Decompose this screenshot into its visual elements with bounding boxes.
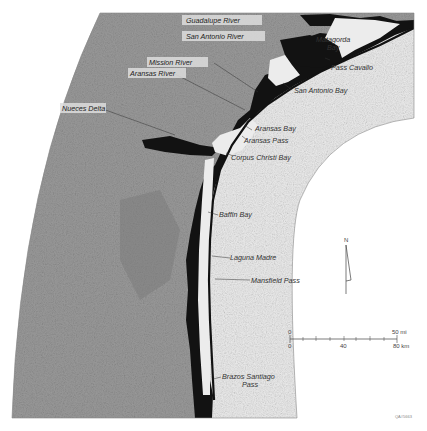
label-aransas-bay: Aransas Bay bbox=[254, 124, 296, 133]
label-brazos-santiago-2: Pass bbox=[242, 380, 258, 389]
scale-km-end: 80 km bbox=[393, 343, 409, 349]
north-arrow-icon: N bbox=[344, 237, 351, 294]
label-nueces-delta: Nueces Delta bbox=[62, 104, 105, 113]
label-laguna-madre: Laguna Madre bbox=[230, 253, 276, 262]
north-label: N bbox=[344, 237, 348, 243]
label-aransas-river: Aransas River bbox=[129, 69, 176, 78]
figure-credit: QA#5663 bbox=[395, 414, 413, 419]
scale-km-mid: 40 bbox=[340, 343, 347, 349]
scale-mi-end: 50 mi bbox=[392, 329, 407, 335]
label-san-antonio-river: San Antonio River bbox=[186, 32, 244, 41]
label-aransas-pass: Aransas Pass bbox=[243, 136, 289, 145]
scale-bar: 0 50 mi 0 40 80 km bbox=[288, 329, 409, 349]
label-mission-river: Mission River bbox=[149, 58, 193, 67]
label-baffin-bay: Baffin Bay bbox=[219, 210, 252, 219]
label-san-antonio-bay: San Antonio Bay bbox=[294, 86, 348, 95]
label-corpus-christi-bay: Corpus Christi Bay bbox=[231, 153, 291, 162]
texas-coast-map: Guadalupe River San Antonio River Missio… bbox=[0, 0, 427, 431]
label-matagorda-bay-2: Bay bbox=[327, 43, 340, 52]
label-mansfield-pass: Mansfield Pass bbox=[251, 276, 300, 285]
label-pass-cavallo: Pass Cavallo bbox=[331, 63, 373, 72]
label-guadalupe-river: Guadalupe River bbox=[186, 16, 241, 25]
